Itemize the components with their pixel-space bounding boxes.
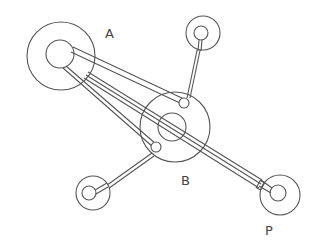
ring-bottom-left — [76, 176, 110, 210]
ring-top — [186, 16, 220, 51]
ring-a — [27, 22, 95, 90]
post-b-upper — [179, 98, 189, 108]
post-b-lower — [151, 142, 161, 152]
label-a: A — [105, 26, 114, 41]
label-b: B — [181, 173, 190, 188]
label-p: P — [265, 223, 273, 238]
rod-b-to-bottom-left — [103, 153, 154, 191]
ring-b — [140, 92, 210, 162]
ring-p — [256, 175, 300, 215]
mechanism-diagram: A B P — [0, 0, 321, 248]
